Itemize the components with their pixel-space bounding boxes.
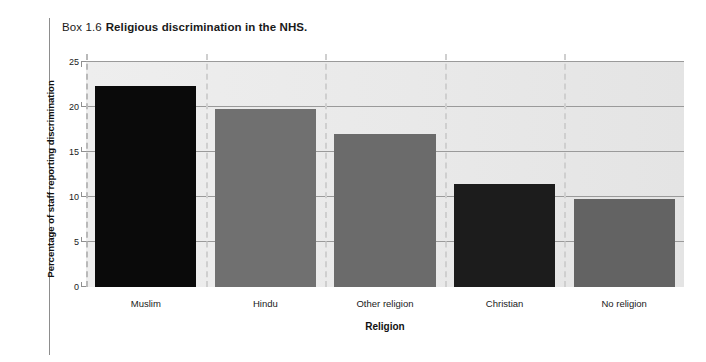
category-separator-3 <box>445 54 447 287</box>
x-tick-label-muslim: Muslim <box>131 298 161 309</box>
y-tick-label-10: 10 <box>69 192 79 202</box>
bar-christian <box>454 184 555 287</box>
x-axis-title: Religion <box>365 321 404 332</box>
bar-no-religion <box>574 199 675 287</box>
y-tick-stub-25 <box>81 62 82 67</box>
bar-chart: Percentage of staff reporting discrimina… <box>62 48 684 310</box>
y-tick-label-0: 0 <box>74 282 79 292</box>
category-separator-2 <box>325 54 327 287</box>
y-tick-stub-0 <box>81 282 82 287</box>
x-tick-label-other-religion: Other religion <box>356 298 413 309</box>
y-tick-label-15: 15 <box>69 147 79 157</box>
caption-box-number: Box 1.6 <box>62 21 102 33</box>
bar-other-religion <box>334 134 435 287</box>
y-tick-stub-15 <box>81 147 82 152</box>
figure-caption: Box 1.6Religious discrimination in the N… <box>62 21 307 33</box>
bar-hindu <box>215 109 316 287</box>
y-tick-label-20: 20 <box>69 102 79 112</box>
y-tick-stub-20 <box>81 102 82 107</box>
y-tick-label-25: 25 <box>69 57 79 67</box>
x-tick-label-hindu: Hindu <box>253 298 278 309</box>
gridline-25 <box>86 61 684 62</box>
y-tick-stub-10 <box>81 192 82 197</box>
y-tick-stub-5 <box>81 237 82 242</box>
caption-title: Religious discrimination in the NHS. <box>106 21 308 33</box>
x-tick-label-no-religion: No religion <box>601 298 646 309</box>
y-axis-title: Percentage of staff reporting discrimina… <box>45 80 56 277</box>
y-tick-label-5: 5 <box>74 237 79 247</box>
y-axis-line <box>86 54 88 287</box>
bar-muslim <box>95 86 196 287</box>
figure-page: Box 1.6Religious discrimination in the N… <box>0 0 706 362</box>
plot-area: 0510152025 MuslimHinduOther religionChri… <box>86 62 684 287</box>
x-tick-label-christian: Christian <box>486 298 524 309</box>
category-separator-1 <box>206 54 208 287</box>
category-separator-4 <box>564 54 566 287</box>
